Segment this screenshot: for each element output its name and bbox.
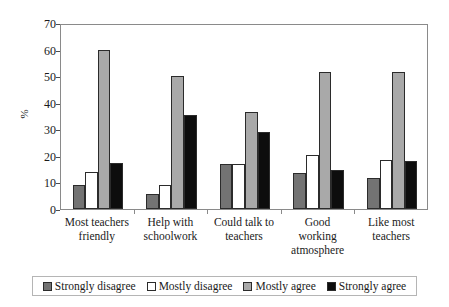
bar — [331, 170, 344, 209]
y-axis-tick-label: 40 — [30, 98, 56, 110]
chart-legend: Strongly disagreeMostly disagreeMostly a… — [32, 276, 417, 296]
x-axis-tick-mark — [354, 210, 355, 214]
x-axis-category-label-line: atmosphere — [275, 243, 361, 257]
x-axis-tick-mark — [281, 210, 282, 214]
bar-group — [73, 25, 123, 209]
x-axis-category-label-line: teachers — [348, 229, 434, 243]
bar — [146, 194, 159, 209]
bar-group — [146, 25, 196, 209]
x-axis-tick-mark — [207, 210, 208, 214]
legend-item-label: Mostly agree — [255, 280, 315, 292]
legend-item[interactable]: Strongly disagree — [43, 280, 136, 292]
legend-item[interactable]: Mostly disagree — [147, 280, 233, 292]
y-axis-tick-label: 30 — [30, 124, 56, 136]
y-axis-tick-mark — [56, 210, 60, 211]
bar-group — [293, 25, 343, 209]
bar — [220, 164, 233, 209]
bar — [98, 50, 111, 209]
legend-swatch-icon — [43, 282, 52, 291]
legend-item-label: Strongly disagree — [55, 280, 136, 292]
x-axis-category-label: Like mostteachers — [348, 215, 434, 243]
bar — [319, 72, 332, 209]
x-axis-category-label-line: Like most — [348, 215, 434, 229]
bar — [405, 161, 418, 209]
bar-group — [220, 25, 270, 209]
bar — [293, 173, 306, 209]
bar — [245, 112, 258, 209]
x-axis-tick-mark — [134, 210, 135, 214]
plot-area — [60, 24, 428, 210]
y-axis-tick-labels: 706050403020100 — [30, 16, 56, 216]
bar — [110, 163, 123, 210]
y-axis-tick-label: 70 — [30, 18, 56, 30]
legend-item-label: Strongly agree — [339, 280, 406, 292]
legend-item[interactable]: Mostly agree — [243, 280, 315, 292]
y-axis-tick-label: 10 — [30, 177, 56, 189]
y-axis-tick-label: 20 — [30, 151, 56, 163]
legend-swatch-icon — [243, 282, 252, 291]
y-axis-tick-label: 0 — [30, 204, 56, 216]
bar-group — [367, 25, 417, 209]
bar — [306, 155, 319, 209]
bar — [367, 178, 380, 209]
bar — [171, 76, 184, 209]
bar — [392, 72, 405, 209]
legend-swatch-icon — [327, 282, 336, 291]
bar — [73, 185, 86, 209]
bar — [258, 132, 271, 209]
bar-chart: % 706050403020100 Most teachersfriendlyH… — [0, 0, 449, 307]
bars-layer — [61, 25, 427, 209]
bar — [184, 115, 197, 209]
legend-item-label: Mostly disagree — [159, 280, 233, 292]
legend-swatch-icon — [147, 282, 156, 291]
bar — [232, 164, 245, 209]
bar — [159, 185, 172, 209]
bar — [85, 172, 98, 209]
y-axis-tick-label: 60 — [30, 45, 56, 57]
legend-item[interactable]: Strongly agree — [327, 280, 406, 292]
bar — [380, 160, 393, 209]
x-axis-tick-labels: Most teachersfriendlyHelp withschoolwork… — [60, 215, 428, 261]
y-axis-tick-label: 50 — [30, 71, 56, 83]
